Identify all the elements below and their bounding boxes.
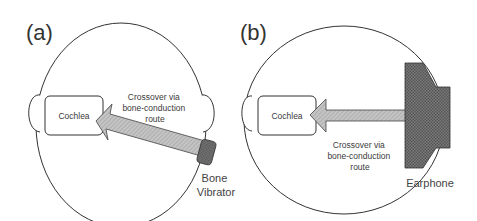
diagram-canvas: (a) Cochlea Crossover via bone-conductio…: [0, 0, 477, 221]
earphone-label: Earphone: [406, 177, 454, 189]
earphone: [405, 63, 450, 168]
panel-a: (a) Cochlea Crossover via bone-conductio…: [26, 20, 235, 221]
cochlea-label: Cochlea: [271, 111, 302, 121]
panel-b: (b) Cochlea Crossover via bone-conductio…: [240, 20, 454, 214]
cochlea-label: Cochlea: [58, 111, 89, 121]
bone-vibrator-label: Bone Vibrator: [197, 172, 236, 198]
panel-a-label: (a): [26, 20, 53, 45]
panel-b-label: (b): [240, 20, 267, 45]
